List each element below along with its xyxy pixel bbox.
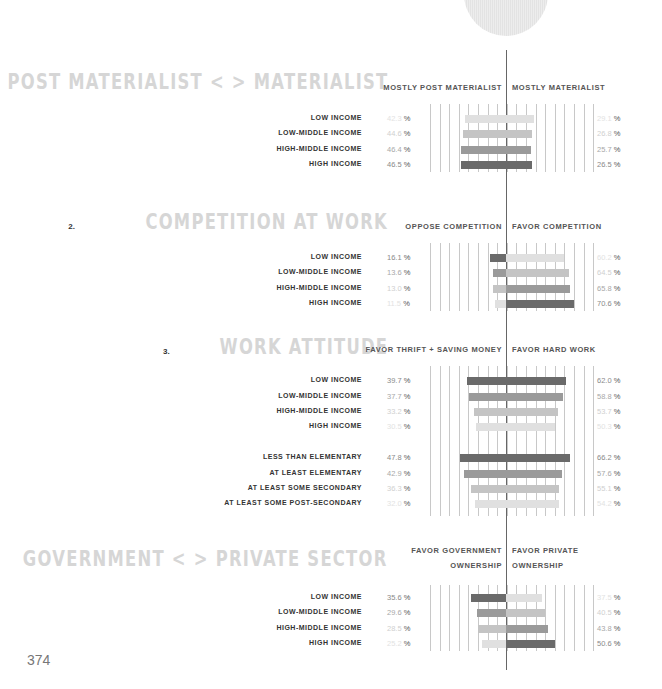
right-bar	[506, 423, 555, 431]
left-series-header: OPPOSE COMPETITION	[405, 219, 502, 234]
table-row: LOW INCOME35.6 %37.5 %	[0, 591, 662, 605]
left-value: 11.5 %	[387, 299, 410, 308]
left-value-number: 30.5	[387, 422, 402, 431]
left-series-header: MOSTLY POST MATERIALIST	[383, 80, 502, 95]
percent-sign: %	[614, 469, 621, 478]
header-line: FAVOR COMPETITION	[512, 219, 602, 234]
section-title-text: COMPETITION AT WORK	[145, 210, 388, 234]
left-value-number: 28.5	[387, 624, 402, 633]
left-value: 39.7 %	[387, 376, 410, 385]
row-label: HIGH INCOME	[309, 639, 362, 646]
section-title: 1.POST MATERIALIST < > MATERIALIST	[0, 70, 388, 94]
section-title: 3.WORK ATTITUDE	[163, 335, 388, 359]
left-bar	[461, 146, 506, 154]
percent-sign: %	[404, 407, 411, 416]
table-row: LOW-MIDDLE INCOME13.6 %64.5 %	[0, 266, 662, 280]
right-bar	[506, 454, 570, 462]
left-value-number: 13.0	[387, 284, 402, 293]
percent-sign: %	[404, 160, 411, 169]
right-series-header: MOSTLY MATERIALIST	[512, 80, 605, 95]
left-value: 36.3 %	[387, 484, 410, 493]
header-line: FAVOR GOVERNMENT	[411, 543, 502, 558]
left-value-number: 29.6	[387, 608, 402, 617]
right-bar	[506, 146, 531, 154]
left-value: 35.6 %	[387, 593, 410, 602]
left-bar	[490, 254, 506, 262]
percent-sign: %	[403, 299, 410, 308]
left-bar	[464, 470, 506, 478]
header-line: OWNERSHIP	[512, 558, 579, 573]
left-value-number: 16.1	[387, 253, 402, 262]
percent-sign: %	[404, 129, 411, 138]
row-label: LOW-MIDDLE INCOME	[278, 392, 362, 399]
percent-sign: %	[404, 422, 411, 431]
row-label: HIGH-MIDDLE INCOME	[276, 284, 362, 291]
right-bar	[506, 300, 574, 308]
row-label: HIGH-MIDDLE INCOME	[276, 624, 362, 631]
percent-sign: %	[404, 268, 411, 277]
table-row: HIGH INCOME46.5 %26.5 %	[0, 158, 662, 172]
section-number: 2.	[68, 222, 75, 231]
left-series-header: FAVOR THRIFT + SAVING MONEY	[365, 342, 502, 357]
right-value: 55.1 %	[597, 484, 620, 493]
header-line: MOSTLY MATERIALIST	[512, 80, 605, 95]
percent-sign: %	[614, 284, 621, 293]
left-value: 46.5 %	[387, 160, 410, 169]
left-value-number: 36.3	[387, 484, 402, 493]
right-value: 26.5 %	[597, 160, 620, 169]
right-value-number: 29.1	[597, 114, 612, 123]
percent-sign: %	[404, 608, 411, 617]
percent-sign: %	[614, 499, 621, 508]
right-value-number: 60.2	[597, 253, 612, 262]
percent-sign: %	[404, 253, 411, 262]
left-value-number: 39.7	[387, 376, 402, 385]
right-bar	[506, 470, 562, 478]
right-value-number: 50.6	[597, 639, 612, 648]
percent-sign: %	[404, 114, 411, 123]
left-value-number: 44.6	[387, 129, 402, 138]
right-value: 54.2 %	[597, 499, 620, 508]
table-row: AT LEAST ELEMENTARY42.9 %57.6 %	[0, 467, 662, 481]
right-value: 26.8 %	[597, 129, 620, 138]
table-row: LOW INCOME42.3 %29.1 %	[0, 112, 662, 126]
row-label: AT LEAST ELEMENTARY	[269, 469, 362, 476]
left-value: 33.2 %	[387, 407, 410, 416]
right-bar	[506, 377, 566, 385]
percent-sign: %	[404, 639, 411, 648]
left-bar	[482, 640, 506, 648]
right-value: 25.7 %	[597, 145, 620, 154]
percent-sign: %	[404, 624, 411, 633]
right-value: 64.5 %	[597, 268, 620, 277]
right-value-number: 37.5	[597, 593, 612, 602]
left-value: 32.0 %	[387, 499, 410, 508]
section-title-text: WORK ATTITUDE	[219, 335, 388, 359]
right-bar	[506, 408, 558, 416]
right-value-number: 43.8	[597, 624, 612, 633]
right-value: 58.8 %	[597, 392, 620, 401]
right-bar	[506, 115, 534, 123]
percent-sign: %	[614, 422, 621, 431]
left-value-number: 46.4	[387, 145, 402, 154]
left-value: 13.0 %	[387, 284, 410, 293]
left-bar	[477, 609, 506, 617]
right-value-number: 58.8	[597, 392, 612, 401]
percent-sign: %	[614, 639, 621, 648]
right-bar	[506, 161, 532, 169]
table-row: HIGH-MIDDLE INCOME46.4 %25.7 %	[0, 143, 662, 157]
row-label: LOW INCOME	[311, 114, 362, 121]
left-value: 29.6 %	[387, 608, 410, 617]
header-line: MOSTLY POST MATERIALIST	[383, 80, 502, 95]
right-bar	[506, 393, 563, 401]
table-row: AT LEAST SOME POST-SECONDARY32.0 %54.2 %	[0, 497, 662, 511]
section-title: 4.GOVERNMENT < > PRIVATE SECTOR	[0, 547, 388, 571]
table-row: HIGH INCOME25.2 %50.6 %	[0, 637, 662, 651]
left-value-number: 11.5	[387, 299, 401, 308]
left-value: 30.5 %	[387, 422, 410, 431]
percent-sign: %	[614, 299, 621, 308]
right-bar	[506, 285, 570, 293]
row-label: LOW-MIDDLE INCOME	[278, 608, 362, 615]
row-label: AT LEAST SOME POST-SECONDARY	[224, 499, 362, 506]
right-value-number: 64.5	[597, 268, 612, 277]
right-bar	[506, 485, 559, 493]
left-value: 13.6 %	[387, 268, 410, 277]
